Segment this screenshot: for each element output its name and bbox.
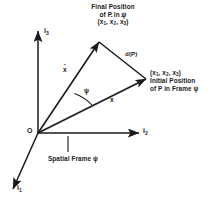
angle-psi-label: ψ: [84, 87, 89, 95]
coord-xhat-1: ˆx: [100, 18, 104, 26]
axis-label-i3: i3: [44, 27, 49, 36]
final-position-label: Final Position of P in ψ (ˆx1, ˆx2, ˆx3): [78, 3, 148, 27]
displacement-line: [99, 42, 146, 79]
initial-position-label: (x1, x2, x3) Initial Position of P in Fr…: [150, 69, 198, 93]
axis-label-i1: i1: [17, 184, 22, 193]
vector-xhat-line: [38, 42, 99, 133]
coord-xhat-2: ˆx: [110, 18, 114, 26]
paren-close: ): [126, 18, 128, 25]
axis-line-i1: [13, 133, 38, 189]
hat-accent-2: ˆ: [111, 15, 113, 21]
origin-label: O: [27, 127, 33, 135]
vector-x-line: [38, 79, 146, 133]
initial-position-line2: of P in Frame ψ: [150, 85, 198, 93]
hat-accent-1: ˆ: [101, 15, 103, 21]
final-position-coords: (ˆx1, ˆx2, ˆx3): [78, 18, 148, 26]
angle-arc: [75, 94, 93, 106]
final-position-line2: of P in ψ: [78, 11, 148, 19]
axis-i2-sub: 2: [145, 130, 148, 136]
initial-position-coords: (x1, x2, x3): [150, 69, 198, 77]
axis-i1-sub: 1: [19, 187, 22, 193]
vector-xhat-label: ˆx: [63, 66, 67, 74]
vector-hat-accent: ˆ: [64, 63, 66, 69]
init-paren-close: ): [179, 69, 181, 76]
axis-label-i2: i2: [143, 127, 148, 136]
diagram-linework: [0, 0, 215, 203]
hat-accent-3: ˆ: [121, 15, 123, 21]
figure-canvas: Final Position of P in ψ (ˆx1, ˆx2, ˆx3)…: [0, 0, 215, 203]
spatial-frame-caption: Spatial Frame ψ: [48, 155, 98, 163]
axis-i3-sub: 3: [46, 30, 49, 36]
vector-x-label: x: [110, 96, 114, 104]
initial-position-line1: Initial Position: [150, 77, 198, 85]
final-position-line1: Final Position: [78, 3, 148, 11]
coord-xhat-3: ˆx: [120, 18, 124, 26]
vector-xhat-glyph: ˆx: [63, 66, 67, 74]
displacement-label: d(P): [125, 50, 137, 57]
